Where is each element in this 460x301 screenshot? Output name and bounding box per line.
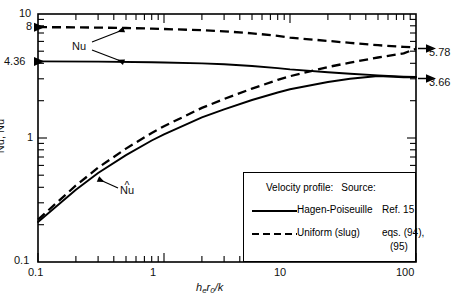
legend-header: Velocity profile:Source: bbox=[266, 182, 376, 193]
y-axis-title-hat-group: ^Nu bbox=[0, 119, 6, 133]
legend-swatch-dashed-line bbox=[252, 230, 297, 237]
x-tick-label-100: 100 bbox=[396, 266, 414, 278]
nu-leader-lines bbox=[92, 30, 124, 63]
legend-row-uniform-slug: Uniform (slug)eqs. (94), bbox=[252, 227, 424, 238]
hat-accent-icon: ^ bbox=[0, 123, 1, 128]
legend-header-velocity: Velocity profile: bbox=[266, 182, 333, 193]
right-label-5-78: 5.78 bbox=[429, 46, 450, 58]
hat-accent-icon: ^ bbox=[125, 181, 130, 191]
annotation-nuhat-group: ^Nu bbox=[120, 184, 134, 196]
curve-nu-hagen-poiseuille bbox=[38, 61, 416, 77]
x-axis-title: her0/k bbox=[196, 281, 223, 295]
x-tick-label-1: 1 bbox=[150, 266, 156, 278]
x-tick-label-10: 10 bbox=[274, 266, 286, 278]
annotation-nuhat: ^Nu bbox=[120, 184, 134, 196]
legend-label-hagen-poiseuille: Hagen-Poiseuille bbox=[297, 204, 382, 215]
legend-source-ref-15: Ref. 15 bbox=[382, 204, 414, 215]
legend-label-uniform-slug: Uniform (slug) bbox=[297, 227, 382, 238]
right-label-3-66: 3.66 bbox=[429, 76, 450, 88]
nuhat-leader-line bbox=[98, 179, 118, 188]
curve-nu-uniform bbox=[38, 27, 416, 47]
y-axis-title-main: Nu, bbox=[0, 133, 6, 153]
y-tick-label-10: 10 bbox=[19, 7, 31, 19]
x-axis-title-k: /k bbox=[215, 281, 224, 293]
legend-row-hagen-poiseuille: Hagen-PoiseuilleRef. 15 bbox=[252, 204, 414, 215]
figure-container: 10 8 4.36 1 0.1 0.1 1 10 100 5.78 3.66 h… bbox=[0, 0, 460, 301]
legend-source-eqs: eqs. (94), bbox=[382, 227, 424, 238]
y-tick-label-0-1: 0.1 bbox=[14, 254, 29, 266]
legend-source-continuation: (95) bbox=[390, 241, 408, 252]
y-tick-label-8: 8 bbox=[26, 20, 32, 32]
y-axis-title: Nu, ^Nu bbox=[0, 119, 6, 153]
y-tick-label-4-36: 4.36 bbox=[4, 55, 25, 67]
x-tick-label-0-1: 0.1 bbox=[28, 266, 43, 278]
y-tick-label-1: 1 bbox=[27, 131, 33, 143]
legend-swatch-solid-line bbox=[252, 207, 297, 214]
legend-header-source: Source: bbox=[341, 182, 375, 193]
legend-box: Velocity profile:Source: Hagen-Poiseuill… bbox=[243, 172, 416, 262]
right-value-arrows bbox=[418, 49, 427, 79]
annotation-nu: Nu bbox=[72, 40, 86, 52]
